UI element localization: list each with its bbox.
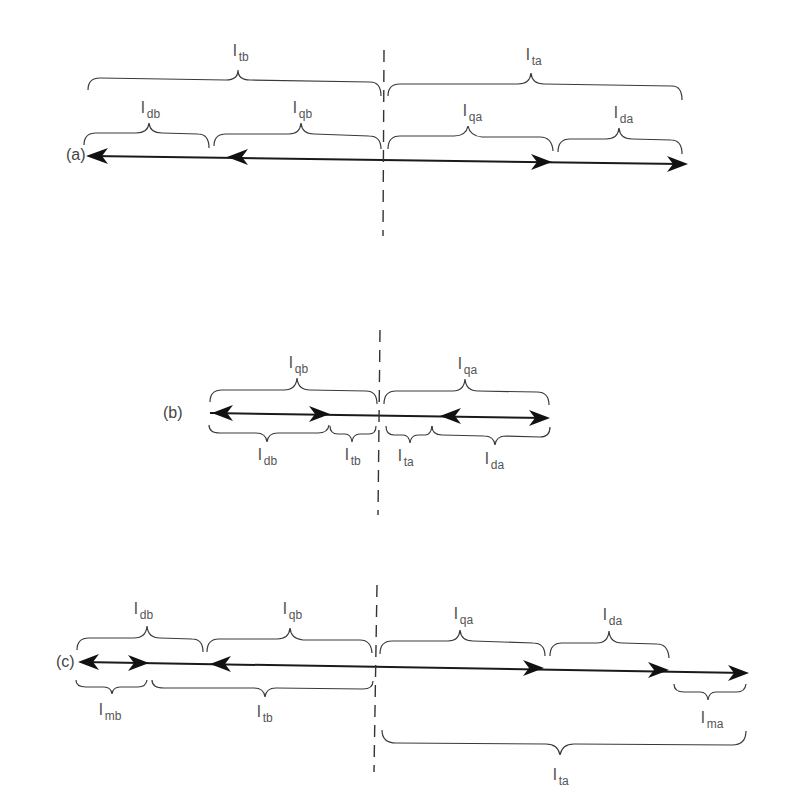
label-l-ta: lta (553, 765, 569, 788)
arrowhead-left-icon (227, 149, 248, 165)
brace-l-ma (674, 684, 746, 700)
label-l-db: ldb (258, 445, 277, 468)
label-l-qb: lqb (293, 98, 312, 121)
brace-l-ta (386, 426, 432, 443)
divider-line-a (383, 50, 384, 236)
brace-l-ta (382, 730, 746, 755)
arrowhead-right-icon (648, 662, 669, 678)
panel-b: (b) lqb lqa ldb ltb lta lda (163, 330, 550, 515)
brace-l-qb (207, 628, 372, 653)
panel-label-b: (b) (163, 404, 183, 421)
label-l-da: lda (614, 103, 633, 126)
arrowhead-right-icon (523, 660, 544, 676)
divider-line-c (374, 585, 377, 772)
axis-line-a (92, 156, 680, 164)
label-l-qa: lqa (463, 101, 482, 124)
brace-l-db (209, 425, 329, 442)
brace-l-db (84, 123, 209, 148)
label-l-qa: lqa (454, 604, 473, 627)
panel-a: (a) ltb lta ldb lqb lqa lda (66, 41, 688, 236)
divider-line-b (378, 330, 380, 515)
panel-label-c: (c) (56, 653, 75, 670)
brace-l-da (550, 631, 669, 658)
label-l-ta: lta (398, 446, 414, 469)
label-l-tb: ltb (233, 41, 249, 64)
brace-l-tb (152, 680, 373, 697)
brace-l-mb (76, 680, 147, 694)
label-l-db: ldb (134, 599, 153, 622)
label-l-qb: lqb (289, 353, 308, 376)
label-l-tb: ltb (257, 702, 273, 725)
brace-l-qb (210, 378, 377, 404)
brace-l-tb (330, 426, 376, 442)
label-l-db: ldb (141, 98, 160, 121)
brace-l-qa (380, 630, 545, 656)
brace-l-qb (214, 123, 381, 149)
brace-l-ta (388, 73, 682, 100)
diagram-canvas: (a) ltb lta ldb lqb lqa lda (b) (0, 0, 787, 809)
brace-l-da (558, 128, 682, 154)
label-l-qa: lqa (458, 354, 477, 377)
panel-c: (c) ldb lqb lqa lda lmb ltb lma lta (56, 585, 749, 788)
brace-l-da (432, 426, 550, 445)
label-l-qb: lqb (283, 599, 302, 622)
label-l-ta: lta (526, 45, 542, 68)
label-l-mb: lmb (99, 700, 122, 723)
brace-l-tb (88, 70, 381, 96)
label-l-da: lda (603, 605, 622, 628)
label-l-ma: lma (701, 708, 724, 731)
label-l-da: lda (485, 449, 504, 472)
label-l-tb: ltb (345, 445, 361, 468)
axis-line-b (210, 413, 545, 418)
panel-label-a: (a) (66, 146, 86, 163)
brace-l-qa (384, 379, 549, 405)
brace-l-db (77, 626, 203, 652)
axis-line-c (82, 662, 745, 673)
brace-l-qa (388, 126, 553, 151)
